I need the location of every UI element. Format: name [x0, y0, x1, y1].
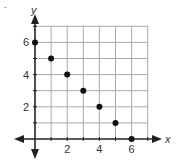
tick-labels: 246246	[23, 36, 135, 155]
svg-text:6: 6	[129, 143, 135, 155]
grid-lines	[35, 26, 148, 139]
svg-text:4: 4	[23, 69, 29, 81]
axes	[14, 14, 162, 159]
data-point	[48, 56, 54, 62]
data-point	[32, 39, 38, 45]
scatter-chart: 246246 . y x	[0, 0, 178, 167]
x-axis-label: x	[164, 133, 171, 145]
data-point	[96, 104, 102, 110]
data-point	[80, 88, 86, 94]
data-point	[129, 136, 135, 142]
data-point	[113, 120, 119, 126]
svg-text:2: 2	[64, 143, 70, 155]
data-point	[64, 72, 70, 78]
svg-text:2: 2	[23, 101, 29, 113]
svg-text:6: 6	[23, 36, 29, 48]
svg-text:4: 4	[96, 143, 102, 155]
problem-marker: .	[4, 0, 7, 10]
y-axis-label: y	[30, 4, 38, 16]
